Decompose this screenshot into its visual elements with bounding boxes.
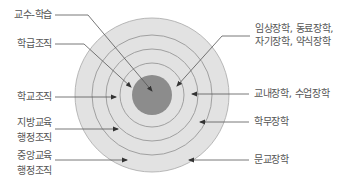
label-line: 행정조직 [17,130,52,145]
label-line: 교수-학습 [14,8,52,21]
label-ministry-supervision: 문교장학 [254,153,289,166]
label-line: 행정조직 [17,163,52,178]
label-line: 지방교육 [17,115,52,130]
label-in-school-instructional-supervision: 교내장학, 수업장학 [254,87,329,100]
label-line: 학무장학 [254,115,289,128]
concentric-circles [75,18,229,172]
label-local-education-admin: 지방교육 행정조직 [17,115,52,145]
label-line: 임상장학, 동료장학, [255,22,333,35]
label-clinical-peer-self-informal-supervision: 임상장학, 동료장학, 자기장학, 약식장학 [255,22,333,48]
label-line: 중앙교육 [17,148,52,163]
label-line: 자기장학, 약식장학 [255,35,333,48]
label-line: 문교장학 [254,153,289,166]
label-teaching-learning: 교수-학습 [14,8,52,21]
label-line: 교내장학, 수업장학 [254,87,329,100]
label-school-organization: 학교조직 [17,90,52,103]
core-teaching-learning [132,75,172,115]
label-class-organization: 학급조직 [17,37,52,50]
label-line: 학급조직 [17,37,52,50]
label-line: 학교조직 [17,90,52,103]
label-central-education-admin: 중앙교육 행정조직 [17,148,52,178]
label-academic-affairs-supervision: 학무장학 [254,115,289,128]
